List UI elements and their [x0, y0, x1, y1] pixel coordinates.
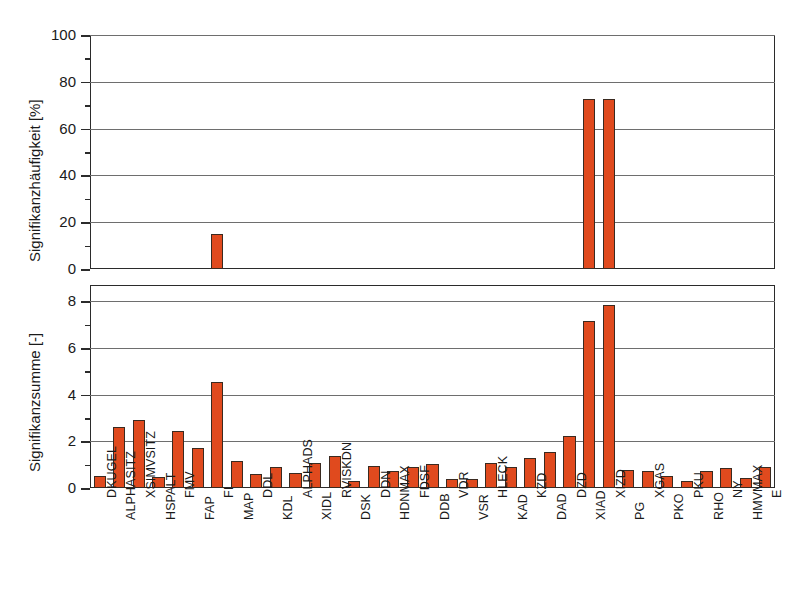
y-axis-title-top: Signifikanzhäufigkeit [%]	[26, 99, 43, 262]
x-axis-label: XIDL	[320, 492, 334, 520]
panel-signifikanzhaeufigkeit	[90, 35, 775, 269]
bar	[603, 99, 615, 269]
y-tick-minor	[85, 199, 90, 201]
x-axis-label: DZD	[575, 472, 589, 498]
panel-signifikanzsumme	[90, 285, 775, 488]
gridline	[90, 82, 775, 83]
x-axis-label: HLECK	[496, 456, 510, 498]
bar	[642, 471, 654, 488]
bar	[563, 436, 575, 489]
gridline	[90, 301, 775, 302]
bar	[329, 456, 341, 488]
x-axis-label: VSR	[477, 494, 491, 520]
y-tick-major	[81, 348, 90, 350]
y-tick-minor	[85, 418, 90, 420]
x-axis-label: DSK	[359, 494, 373, 520]
y-tick-label: 0	[28, 479, 76, 496]
y-tick-minor	[85, 152, 90, 154]
x-axis-label: XGAS	[653, 463, 667, 498]
y-tick-label: 100	[28, 26, 76, 43]
x-axis-label: DAD	[555, 493, 569, 520]
x-axis-label: XIZD	[614, 469, 628, 498]
gridline	[90, 175, 775, 176]
bar	[94, 476, 106, 488]
bar	[583, 321, 595, 488]
x-axis-label: XSIMVSITZ	[144, 431, 158, 498]
gridline	[90, 35, 775, 36]
x-axis-label: DDN	[379, 471, 393, 498]
x-axis-label: VDR	[457, 471, 471, 498]
x-axis-label: E	[770, 490, 784, 498]
bar	[603, 305, 615, 488]
y-tick-major	[81, 488, 90, 490]
x-axis-label: DDL	[261, 473, 275, 498]
x-axis-label: FDSF	[418, 465, 432, 498]
x-axis-label: DKUGEL	[105, 446, 119, 498]
x-axis-label: RHO	[712, 492, 726, 520]
y-tick-major	[81, 35, 90, 37]
gridline	[90, 222, 775, 223]
x-axis-label: KAD	[516, 494, 530, 520]
gridline	[90, 441, 775, 442]
y-tick-major	[81, 82, 90, 84]
x-axis-label: PKU	[692, 472, 706, 498]
y-tick-major	[81, 395, 90, 397]
bar	[211, 234, 223, 269]
y-tick-minor	[85, 246, 90, 248]
y-tick-major	[81, 301, 90, 303]
bar	[583, 99, 595, 269]
y-tick-label: 8	[28, 292, 76, 309]
y-tick-minor	[85, 325, 90, 327]
x-axis-label: KDL	[281, 495, 295, 520]
x-axis-label: DDB	[438, 493, 452, 520]
gridline	[90, 348, 775, 349]
y-tick-minor	[85, 58, 90, 60]
x-axis-label: FAP	[203, 496, 217, 520]
y-tick-major	[81, 269, 90, 271]
y-axis-title-bottom: Signifikanzsumme [-]	[26, 333, 43, 472]
x-axis-label: HMVMAX	[751, 465, 765, 520]
x-axis-label: KZD	[535, 473, 549, 498]
chart-figure: 020406080100 Signifikanzhäufigkeit [%] 0…	[0, 0, 808, 601]
x-axis-label: RVISKDN	[340, 442, 354, 498]
gridline	[90, 395, 775, 396]
x-axis-label: XIAD	[594, 490, 608, 520]
bar	[231, 461, 243, 488]
gridline	[90, 129, 775, 130]
y-tick-major	[81, 441, 90, 443]
y-tick-major	[81, 129, 90, 131]
plot-frame-top	[90, 35, 775, 269]
bar	[289, 473, 301, 488]
y-tick-minor	[85, 105, 90, 107]
x-axis-label: ALPHADS	[301, 439, 315, 498]
y-tick-label: 0	[28, 260, 76, 277]
y-tick-major	[81, 175, 90, 177]
y-tick-label: 80	[28, 73, 76, 90]
x-axis-label: PG	[633, 502, 647, 520]
x-axis-label: FI	[222, 487, 236, 498]
x-axis-label: FMV	[183, 471, 197, 498]
y-tick-minor	[85, 371, 90, 373]
x-axis-label: HSPALT	[164, 473, 178, 520]
bar	[211, 382, 223, 488]
x-axis-label: ALPHASITZ	[124, 451, 138, 520]
x-axis-label: HDNMAX	[398, 465, 412, 520]
x-axis-label: PKO	[672, 493, 686, 520]
x-axis-label: MAP	[242, 493, 256, 520]
x-axis-label: NY	[731, 480, 745, 498]
y-tick-major	[81, 222, 90, 224]
y-tick-minor	[85, 465, 90, 467]
bar	[368, 466, 380, 488]
